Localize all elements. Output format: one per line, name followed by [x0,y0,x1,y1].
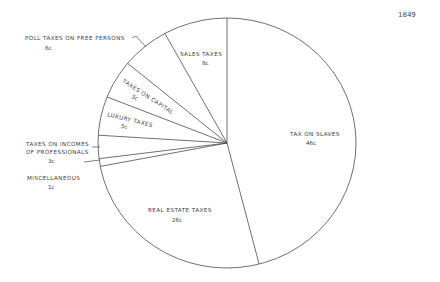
slice-boundary-6 [128,63,227,143]
svg-text:TAXES ON CAPITAL: TAXES ON CAPITAL [121,77,176,115]
slice-boundary-1 [227,143,259,264]
svg-text:SALES TAXES: SALES TAXES [180,51,222,57]
svg-text:TAXES ON INCOMES: TAXES ON INCOMES [25,141,89,147]
svg-text:26c: 26c [172,217,182,223]
svg-text:TAX ON SLAVES: TAX ON SLAVES [289,131,340,137]
slice-boundary-3 [99,143,227,159]
svg-text:POLL TAXES ON FREE PERSONS: POLL TAXES ON FREE PERSONS [25,35,125,41]
slice-label-professionals: TAXES ON INCOMES OF PROFESSIONALS 3c [25,141,100,164]
slice-label-real-estate-taxes: REAL ESTATE TAXES 26c [148,207,212,223]
svg-text:8c: 8c [202,60,209,66]
svg-text:OF PROFESSIONALS: OF PROFESSIONALS [26,149,89,155]
svg-text:5c: 5c [131,93,140,102]
svg-text:5c: 5c [120,123,128,130]
slice-boundary-4 [98,135,227,143]
leader-line-poll [132,36,146,47]
svg-text:3c: 3c [48,158,55,164]
slice-label-luxury-taxes: LUXURY TAXES 5c [105,111,154,136]
pie-chart: 1849 TAX ON SLAVES 46c REAL ESTATE TAXES… [0,0,440,282]
svg-text:REAL ESTATE TAXES: REAL ESTATE TAXES [148,207,212,213]
svg-text:MISCELLANEOUS: MISCELLANEOUS [27,175,80,181]
slice-label-miscellaneous: MISCELLANEOUS 1c [27,160,100,190]
slice-boundary-7 [165,34,227,144]
slice-label-poll-taxes: POLL TAXES ON FREE PERSONS 6c [25,35,146,51]
slice-boundary-2 [100,143,227,166]
svg-text:LUXURY TAXES: LUXURY TAXES [107,111,154,128]
leader-line-misc [84,160,100,162]
svg-text:1c: 1c [48,184,55,190]
svg-text:6c: 6c [45,45,52,51]
chart-title: 1849 [398,11,416,19]
svg-text:46c: 46c [306,140,316,146]
slice-label-tax-on-slaves: TAX ON SLAVES 46c [289,131,340,146]
pie-slices [98,18,259,264]
slice-label-sales-taxes: SALES TAXES 8c [180,51,222,66]
